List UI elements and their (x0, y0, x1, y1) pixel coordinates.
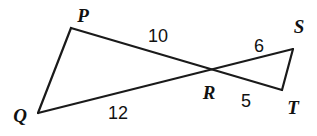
segment-pq (38, 28, 71, 113)
measure-label-rs: 6 (254, 37, 264, 55)
geometry-figure: P Q R S T 10 12 6 5 (0, 0, 317, 136)
vertex-label-q: Q (13, 106, 27, 125)
measure-label-pr: 10 (148, 27, 168, 45)
measure-label-qr: 12 (108, 104, 128, 122)
vertex-label-s: S (294, 17, 305, 36)
vertex-label-r: R (203, 83, 216, 102)
diagram-canvas (0, 0, 317, 136)
vertex-label-t: T (287, 98, 299, 117)
measure-label-rt: 5 (241, 92, 251, 110)
vertex-label-p: P (77, 6, 89, 25)
segment-st (282, 49, 293, 90)
